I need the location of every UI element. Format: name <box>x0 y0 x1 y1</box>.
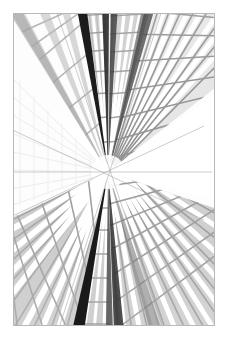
photograph-frame: Skyscrapers looking up — one-point persp… <box>13 13 215 326</box>
page-root: Skyscrapers looking up — one-point persp… <box>0 0 228 338</box>
skyscraper-photograph <box>14 14 214 325</box>
